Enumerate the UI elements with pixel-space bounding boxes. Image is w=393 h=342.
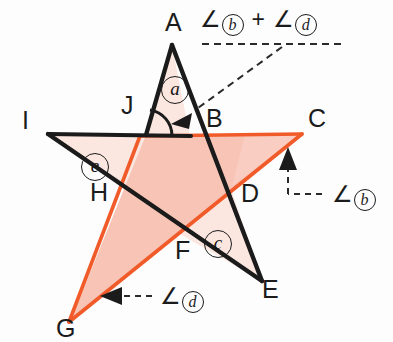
angle-sign-1: ∠ — [200, 6, 222, 32]
dashed-pointer-sum — [198, 47, 282, 108]
vertex-label-C: C — [308, 106, 326, 131]
angle-marker-a: a — [161, 76, 189, 104]
vertex-label-J: J — [121, 93, 134, 118]
circled-d-2: d — [182, 291, 204, 313]
vertex-label-A: A — [165, 10, 182, 35]
circled-d-1: d — [295, 14, 317, 36]
circled-b-1: b — [222, 14, 244, 36]
angle-sign-3: ∠ — [332, 181, 354, 207]
angle-sign-4: ∠ — [160, 283, 182, 309]
plus-sign: + — [251, 6, 265, 32]
vertex-label-I: I — [22, 108, 29, 133]
angle-d-annotation: ∠d — [160, 285, 204, 313]
diagram-canvas: A B C D E F G H I J a e c ∠b + ∠d ∠b ∠d — [0, 0, 393, 342]
angle-marker-e: e — [81, 153, 109, 181]
vertex-label-F: F — [175, 238, 190, 263]
vertex-label-H: H — [90, 180, 108, 205]
angle-b-annotation: ∠b — [332, 183, 376, 211]
angle-sign-2: ∠ — [273, 6, 295, 32]
vertex-label-B: B — [206, 106, 223, 131]
circled-b-2: b — [354, 189, 376, 211]
black-line-IB — [48, 134, 191, 136]
sum-annotation: ∠b + ∠d — [200, 8, 317, 36]
vertex-label-D: D — [241, 181, 259, 206]
vertex-label-E: E — [262, 277, 279, 302]
angle-marker-c: c — [204, 230, 232, 258]
vertex-label-G: G — [56, 316, 75, 341]
